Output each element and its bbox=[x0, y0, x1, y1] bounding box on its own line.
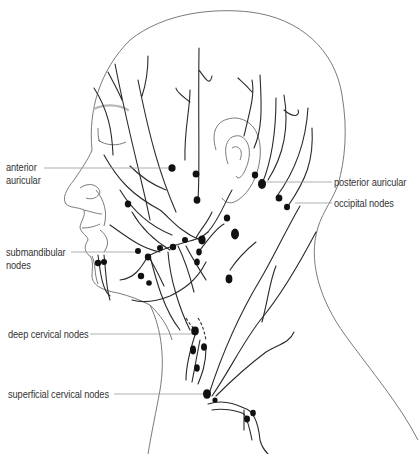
label-anterior-auricular-line1: anterior bbox=[6, 161, 41, 174]
lymph-node-diagram: anterior auricular posterior auricular o… bbox=[0, 0, 420, 454]
node-deep-cervical-4 bbox=[194, 364, 200, 372]
label-submandibular-line1: submandibular bbox=[6, 246, 65, 259]
lips bbox=[82, 210, 102, 228]
node-occipital-1 bbox=[276, 194, 283, 201]
label-submandibular-nodes: submandibular nodes bbox=[6, 246, 65, 272]
node-supraclavicular-1 bbox=[212, 397, 217, 402]
node-facial-1 bbox=[182, 237, 188, 243]
node-jugular-upper-1 bbox=[196, 249, 202, 256]
node-submandibular-1 bbox=[157, 245, 163, 251]
label-superficial-cervical-nodes: superficial cervical nodes bbox=[8, 388, 109, 401]
node-supraclavicular-2 bbox=[250, 410, 256, 416]
label-deep-cervical-nodes: deep cervical nodes bbox=[8, 328, 89, 341]
node-superficial-cervical bbox=[203, 389, 211, 399]
node-submental-1 bbox=[95, 260, 101, 266]
lymph-nodes bbox=[95, 164, 290, 422]
node-preauricular-lower bbox=[194, 196, 201, 204]
node-deep-cervical-2 bbox=[190, 346, 196, 355]
node-posterior-auricular-1 bbox=[252, 172, 258, 179]
node-facial-2 bbox=[170, 244, 176, 250]
label-anterior-auricular: anterior auricular bbox=[6, 161, 41, 187]
node-submandibular-low bbox=[138, 273, 144, 279]
node-buccal bbox=[125, 201, 131, 208]
node-submandibular-low-2 bbox=[146, 280, 152, 286]
ear-inner bbox=[226, 136, 250, 178]
cheek-fold bbox=[96, 190, 107, 252]
label-posterior-auricular: posterior auricular bbox=[334, 176, 406, 189]
node-parotid-large bbox=[231, 229, 239, 240]
node-parotid bbox=[198, 236, 205, 245]
node-deep-cervical-3 bbox=[201, 343, 207, 351]
label-anterior-auricular-line2: auricular bbox=[6, 174, 41, 187]
ear-canal bbox=[232, 147, 241, 160]
face-profile bbox=[64, 150, 172, 340]
node-submandibular-3 bbox=[135, 248, 141, 254]
ear-outer bbox=[214, 118, 260, 203]
node-submandibular-2 bbox=[145, 254, 151, 261]
node-cervical-mid bbox=[226, 275, 233, 284]
scalp-vessels bbox=[94, 48, 312, 220]
node-anterior-auricular bbox=[168, 164, 175, 172]
label-submandibular-line2: nodes bbox=[6, 259, 65, 272]
node-posterior-auricular-2 bbox=[258, 179, 266, 189]
eyebrow bbox=[94, 105, 128, 110]
face-vessels bbox=[98, 155, 232, 330]
node-supraclavicular-3 bbox=[244, 416, 250, 423]
node-submental-2 bbox=[101, 259, 107, 265]
label-occipital-nodes: occipital nodes bbox=[334, 197, 394, 210]
neck-front-outline bbox=[148, 305, 162, 454]
head-neck-illustration bbox=[0, 0, 420, 454]
node-preauricular-upper bbox=[193, 170, 200, 177]
node-deep-cervical-1 bbox=[191, 327, 199, 336]
head-outline bbox=[91, 11, 418, 440]
node-mastoid bbox=[224, 214, 230, 221]
node-jugular-upper-2 bbox=[194, 258, 200, 265]
node-occipital-2 bbox=[284, 204, 290, 210]
